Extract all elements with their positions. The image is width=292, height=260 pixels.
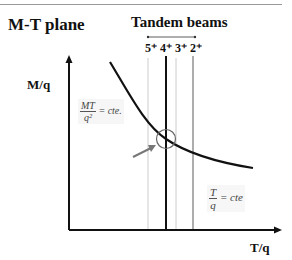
- x-axis-arrowhead: [274, 227, 282, 234]
- formula-t-constant: Tq = cte: [207, 185, 245, 212]
- y-axis-arrowhead: [66, 55, 73, 63]
- constant-mt-curve: [110, 62, 253, 168]
- mt-plane-diagram: [0, 0, 292, 260]
- formula-mt-constant: MTq² = cte.: [78, 99, 124, 124]
